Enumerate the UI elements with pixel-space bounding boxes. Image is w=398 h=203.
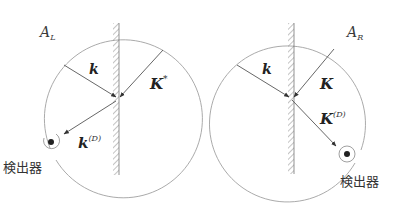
panel-right: AR k K K(D) 検出器	[209, 23, 379, 202]
detector-right	[339, 146, 355, 162]
label-KD-right: K(D)	[319, 110, 346, 128]
label-K-left: K*	[149, 74, 168, 93]
panel-left: AL k K* k(D) 検出器	[3, 23, 202, 198]
region-label-right: AR	[345, 24, 363, 42]
region-label-left: AL	[38, 24, 55, 42]
detector-label-right: 検出器	[340, 174, 379, 189]
detector-label-left: 検出器	[3, 160, 42, 175]
scattering-diagram: AL k K* k(D) 検出器 AR k K K(D) 検出器	[0, 0, 398, 203]
label-kD-left: k(D)	[78, 134, 101, 152]
region-circle-left	[44, 40, 202, 198]
label-k-right: k	[262, 61, 272, 77]
label-k-left: k	[89, 61, 99, 77]
wall-left	[113, 23, 119, 175]
label-K-right: K	[319, 75, 334, 93]
wall-right	[288, 23, 294, 174]
vector-kD-left	[64, 101, 116, 134]
